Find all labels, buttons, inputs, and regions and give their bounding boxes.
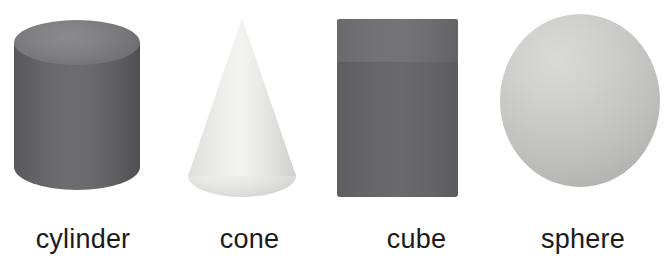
cube-top-face [337,19,458,63]
shape-item-sphere: sphere [500,0,666,271]
shapes-figure: cylinder cone cube sphere [0,0,666,271]
shape-item-cylinder: cylinder [0,0,166,271]
shape-label-cylinder: cylinder [0,222,166,256]
shape-label-sphere: sphere [500,222,666,256]
shape-item-cube: cube [333,0,500,271]
shape-label-cone: cone [166,222,333,256]
cone-body [188,18,296,176]
cylinder-top-ellipse [14,20,140,65]
cube-front-face [337,62,458,197]
sphere-body [500,14,660,187]
shape-label-cube: cube [333,222,500,256]
shape-item-cone: cone [166,0,333,271]
